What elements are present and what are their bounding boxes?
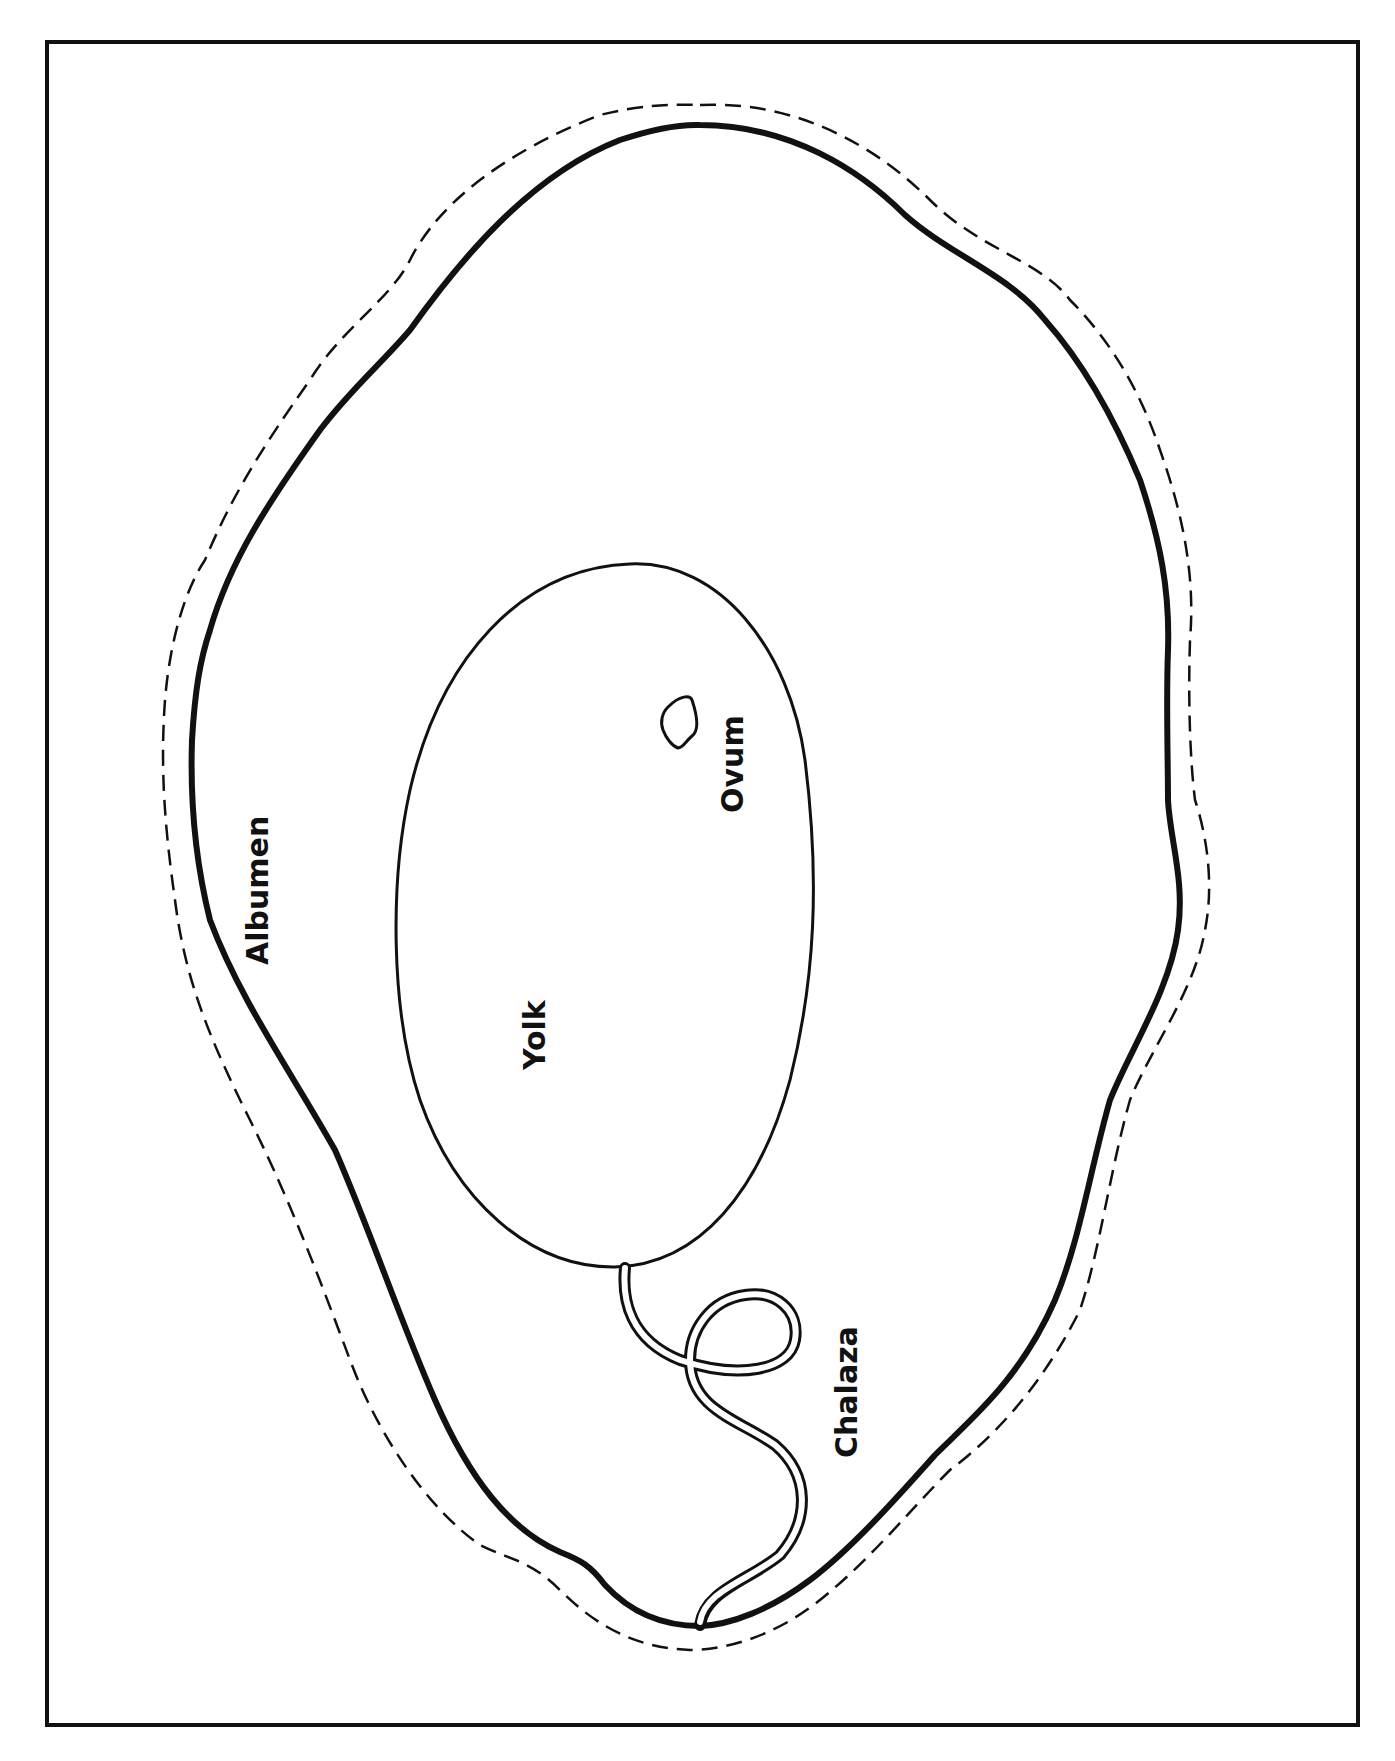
label-chalaza: Chalaza [829,1326,864,1458]
label-ovum: Ovum [715,715,750,813]
ovum-blob [662,697,697,748]
yolk-outline [396,564,813,1267]
label-albumen: Albumen [240,816,275,965]
shell-outline [192,125,1180,1626]
chalaza-cord [624,1268,801,1625]
label-yolk: Yolk [517,999,552,1071]
egg-diagram: Albumen Yolk Ovum Chalaza [0,0,1395,1761]
membrane-outline [163,105,1209,1650]
